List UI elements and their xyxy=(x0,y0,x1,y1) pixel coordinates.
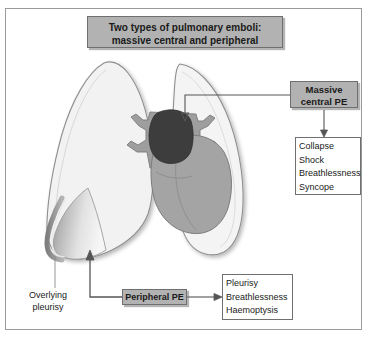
list-item: Syncope xyxy=(299,181,360,195)
central-symptom-list: Collapse Shock Breathlessness Syncope xyxy=(299,140,360,194)
list-item: Shock xyxy=(299,154,360,168)
overlying-pleurisy-label: Overlying pleurisy xyxy=(10,290,86,313)
overlying-pleurisy-line-1: Overlying xyxy=(10,290,86,302)
peripheral-symptom-list: Pleurisy Breathlessness Haemoptysis xyxy=(226,277,292,318)
massive-central-pe-line-1: Massive xyxy=(291,84,357,96)
overlying-pleurisy-line-2: pleurisy xyxy=(10,302,86,314)
peripheral-pe-symptoms: Pleurisy Breathlessness Haemoptysis xyxy=(222,274,293,320)
list-item: Haemoptysis xyxy=(226,304,292,318)
peripheral-pe-label: Peripheral PE xyxy=(122,289,187,305)
list-item: Pleurisy xyxy=(226,277,292,291)
pulmonary-emboli-figure: Two types of pulmonary emboli: massive c… xyxy=(0,0,370,348)
title-line-1: Two types of pulmonary emboli: xyxy=(88,21,282,34)
massive-central-pe-label: Massive central PE xyxy=(290,81,358,108)
massive-central-pe-symptoms: Collapse Shock Breathlessness Syncope xyxy=(295,137,361,195)
list-item: Collapse xyxy=(299,140,360,154)
list-item: Breathlessness xyxy=(299,167,360,181)
list-item: Breathlessness xyxy=(226,291,292,305)
title-line-2: massive central and peripheral xyxy=(88,34,282,47)
massive-central-pe-line-2: central PE xyxy=(291,96,357,108)
figure-title: Two types of pulmonary emboli: massive c… xyxy=(87,16,283,48)
